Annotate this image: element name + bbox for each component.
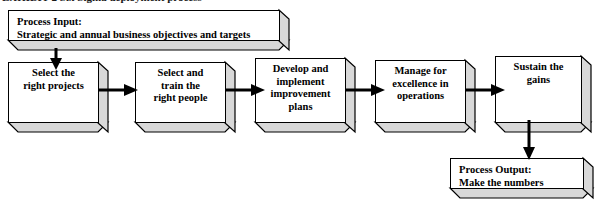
step-box-1: Select the right projects xyxy=(8,62,108,132)
output-box-side-face xyxy=(583,158,593,198)
arrow-step-4-to-step-5 xyxy=(465,82,505,98)
input-box-front-face xyxy=(8,10,280,41)
step-5-front-face xyxy=(495,56,582,123)
step-4-front-face xyxy=(375,60,466,123)
step-box-2: Select and train the right people xyxy=(135,62,235,132)
input-box-side-face xyxy=(279,10,289,50)
process-output-box: Process Output: Make the numbers xyxy=(450,158,593,198)
arrow-step-3-to-step-4 xyxy=(345,82,385,98)
step-box-5: Sustain the gains xyxy=(495,56,591,132)
arrow-step-5-to-output xyxy=(521,120,537,160)
step-3-front-face xyxy=(255,58,346,123)
step-2-front-face xyxy=(135,62,226,123)
output-box-bottom-face xyxy=(450,188,593,198)
arrow-step-1-to-step-2 xyxy=(98,82,138,98)
step-1-bottom-face xyxy=(8,122,108,132)
arrow-step-2-to-step-3 xyxy=(225,82,265,98)
step-5-side-face xyxy=(581,56,591,132)
step-5-bottom-face xyxy=(495,122,591,132)
step-1-front-face xyxy=(8,62,99,123)
step-box-4: Manage for excellence in operations xyxy=(375,60,475,132)
process-flow-diagram: EXHIBIT 2 Six Sigma deployment process P… xyxy=(0,0,599,201)
step-2-bottom-face xyxy=(135,122,235,132)
step-4-bottom-face xyxy=(375,122,475,132)
process-input-box: Process Input: Strategic and annual busi… xyxy=(8,10,289,50)
output-box-front-face xyxy=(450,158,584,189)
cropped-caption: EXHIBIT 2 Six Sigma deployment process xyxy=(2,0,422,3)
arrow-input-to-step-1 xyxy=(48,48,64,70)
step-box-3: Develop and implement improvement plans xyxy=(255,58,355,132)
step-3-bottom-face xyxy=(255,122,355,132)
